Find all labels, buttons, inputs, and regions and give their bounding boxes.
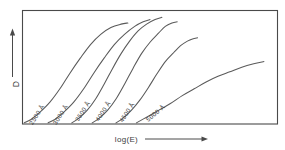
hd-curve-chart: 2500 Å3000 Å3500 Å4000 Å4500 Å5000 Å D l… [0,0,285,150]
y-axis-title: D [11,81,21,87]
x-axis-arrow-icon [145,137,208,142]
y-axis-arrow-icon [10,29,15,78]
x-axis-title: log(E) [115,135,138,144]
figure-container: 2500 Å3000 Å3500 Å4000 Å4500 Å5000 Å D l… [0,0,285,150]
